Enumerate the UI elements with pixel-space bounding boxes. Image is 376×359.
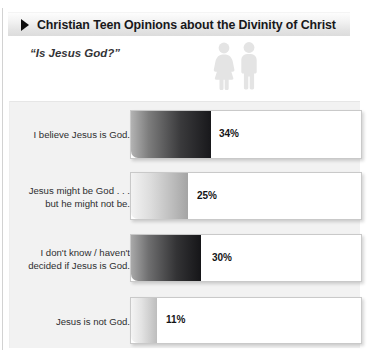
bar-value-label: 25% xyxy=(197,190,217,201)
bar-label: I believe Jesus is God. xyxy=(10,129,130,142)
bar-value-label: 34% xyxy=(219,128,239,139)
bar-value-label: 11% xyxy=(166,314,185,325)
bar-rows: I believe Jesus is God. 34% Jesus might … xyxy=(0,0,376,359)
bar-label: Jesus might be God . . . but he might no… xyxy=(10,185,130,210)
bar-label: I don't know / haven't decided if Jesus … xyxy=(10,247,130,272)
bar-fill xyxy=(131,173,188,219)
bar-fill xyxy=(131,298,157,343)
bar-fill xyxy=(131,111,211,158)
chart-figure: Christian Teen Opinions about the Divini… xyxy=(0,0,376,359)
bar-track: 30% xyxy=(130,234,362,282)
bar-label: Jesus is not God. xyxy=(10,316,130,329)
bar-track: 11% xyxy=(130,297,362,344)
bar-track: 25% xyxy=(130,172,362,220)
bar-track: 34% xyxy=(130,110,362,159)
bar-fill xyxy=(131,235,201,281)
bar-value-label: 30% xyxy=(212,252,232,263)
